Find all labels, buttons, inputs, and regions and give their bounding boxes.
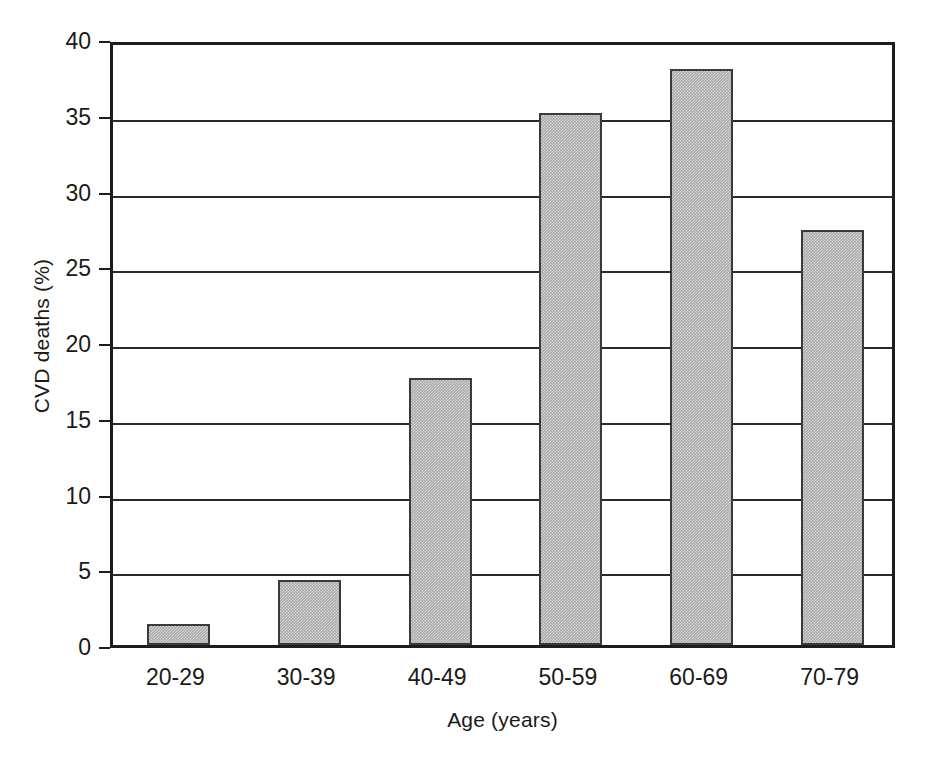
x-tick-label: 60-69: [633, 664, 764, 691]
bar: [670, 69, 733, 645]
y-tick-mark: [99, 420, 110, 422]
y-tick-label: 30: [37, 182, 91, 205]
bar: [801, 230, 864, 645]
x-tick-label: 40-49: [372, 664, 503, 691]
plot-area: [110, 42, 895, 648]
bar: [409, 378, 472, 645]
bar: [147, 624, 210, 645]
y-tick-label: 40: [37, 30, 91, 53]
y-tick-mark: [99, 571, 110, 573]
y-tick-mark: [99, 193, 110, 195]
x-tick-label: 20-29: [110, 664, 241, 691]
bar: [539, 113, 602, 645]
x-tick-label: 70-79: [764, 664, 895, 691]
y-tick-label: 15: [37, 409, 91, 432]
y-tick-label: 20: [37, 333, 91, 356]
x-tick-label: 30-39: [241, 664, 372, 691]
y-tick-label: 0: [37, 636, 91, 659]
y-tick-mark: [99, 268, 110, 270]
y-tick-label: 10: [37, 485, 91, 508]
y-tick-mark: [99, 647, 110, 649]
y-tick-label: 5: [37, 560, 91, 583]
bar-chart-figure: CVD deaths (%) 0510152025303540 20-2930-…: [0, 0, 931, 764]
y-tick-mark: [99, 344, 110, 346]
y-tick-mark: [99, 41, 110, 43]
y-tick-label: 35: [37, 106, 91, 129]
bars-group: [113, 45, 892, 645]
y-tick-label: 25: [37, 257, 91, 280]
x-tick-label: 50-59: [503, 664, 634, 691]
y-tick-mark: [99, 496, 110, 498]
bar: [278, 580, 341, 645]
y-tick-mark: [99, 117, 110, 119]
x-axis-title: Age (years): [110, 708, 895, 732]
